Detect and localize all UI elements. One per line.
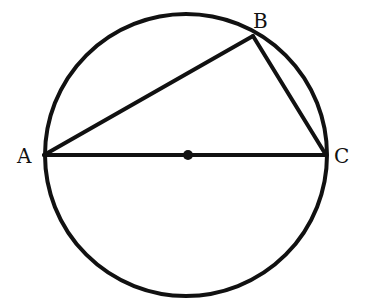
label-c: C [334,144,349,168]
geometry-diagram: A B C [0,0,365,303]
label-a: A [16,144,32,168]
center-point [183,150,193,160]
segment-ab [44,36,253,155]
label-b: B [253,9,268,33]
